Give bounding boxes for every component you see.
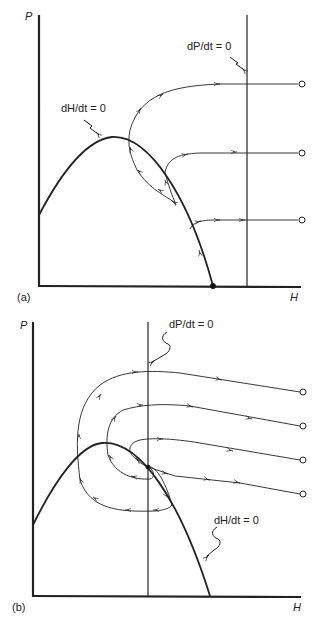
initial-state <box>300 423 306 429</box>
predator-isocline-label: dP/dt = 0 <box>169 318 213 330</box>
initial-state <box>300 457 306 463</box>
prey-isocline <box>33 443 210 596</box>
pointer-squiggle <box>207 527 220 556</box>
initial-state <box>299 217 305 223</box>
predator-isocline-label: dP/dt = 0 <box>187 40 231 52</box>
y-axis-label: P <box>20 319 27 331</box>
y-axis-label: P <box>25 10 32 22</box>
prey-isocline-label: dH/dt = 0 <box>214 514 259 526</box>
initial-state <box>299 150 305 156</box>
pointer-squiggle <box>230 57 244 70</box>
trajectory <box>148 467 300 494</box>
h-axis <box>38 286 301 287</box>
h-axis <box>32 596 301 597</box>
trajectory <box>190 220 298 229</box>
initial-state <box>300 389 306 395</box>
prey-isocline-label: dH/dt = 0 <box>61 102 106 114</box>
trajectory <box>130 439 300 467</box>
panel-a <box>38 15 305 289</box>
panel-label: (a) <box>17 291 30 303</box>
equilibrium-point <box>210 283 215 288</box>
prey-isocline <box>39 137 213 286</box>
trajectory <box>165 153 298 205</box>
equilibrium-point <box>146 465 150 469</box>
initial-state <box>300 491 306 497</box>
trajectory <box>129 84 298 203</box>
x-axis-label: H <box>290 291 298 303</box>
pointer-squiggle <box>84 120 98 134</box>
initial-state <box>299 81 305 87</box>
panel-b <box>32 322 306 597</box>
phase-plane-figure <box>0 0 323 625</box>
pointer-squiggle <box>152 332 170 362</box>
x-axis-label: H <box>293 601 301 613</box>
panel-label: (b) <box>12 601 25 613</box>
